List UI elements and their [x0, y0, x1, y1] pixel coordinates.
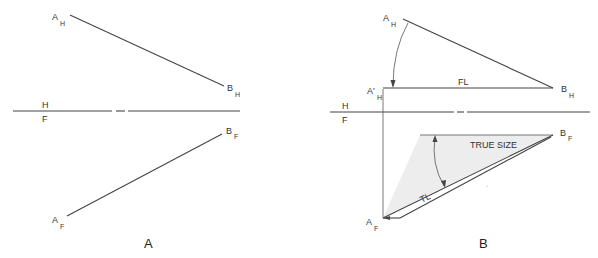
label-b-h-sub: H: [569, 92, 574, 99]
label-fold-f: F: [342, 115, 348, 125]
caption-b: B: [479, 236, 488, 251]
label-a-f: A: [52, 215, 58, 225]
label-a-prime-h-sub: H: [377, 94, 382, 101]
label-a-h: A: [52, 12, 58, 22]
line-ab-front-view: [67, 134, 222, 216]
panel-b: FL A H A' H B H H F TRUE SIZE TL B F A F: [330, 13, 590, 251]
line-ab-top-view: [403, 19, 553, 88]
label-a-f-sub: F: [374, 225, 378, 232]
label-b-f: B: [560, 128, 566, 138]
label-b-f: B: [226, 126, 232, 136]
label-true-size: TRUE SIZE: [470, 140, 517, 150]
label-b-h-sub: H: [235, 91, 240, 98]
label-a-h: A: [383, 13, 389, 23]
line-ab-top-view: [70, 15, 224, 86]
revolution-arc: [393, 23, 408, 86]
caption-a: A: [144, 236, 153, 251]
label-b-f-sub: F: [234, 133, 238, 140]
speck: [486, 185, 487, 186]
label-a-f: A: [366, 217, 372, 227]
arrow-head-icon: [391, 80, 396, 88]
label-a-h-sub: H: [391, 21, 396, 28]
label-a-prime-h: A': [367, 86, 375, 96]
label-fold-h: H: [42, 100, 49, 110]
label-b-h: B: [227, 83, 233, 93]
label-fl: FL: [458, 77, 469, 87]
panel-a: A H B H H F B F A F A: [13, 12, 240, 251]
label-a-h-sub: H: [60, 20, 65, 27]
label-fold-h: H: [342, 101, 349, 111]
descriptive-geometry-figure: A H B H H F B F A F A FL A H A' H B H: [0, 0, 598, 258]
label-b-h: B: [561, 84, 567, 94]
label-a-f-sub: F: [60, 223, 64, 230]
label-fold-f: F: [42, 114, 48, 124]
label-b-f-sub: F: [568, 135, 572, 142]
